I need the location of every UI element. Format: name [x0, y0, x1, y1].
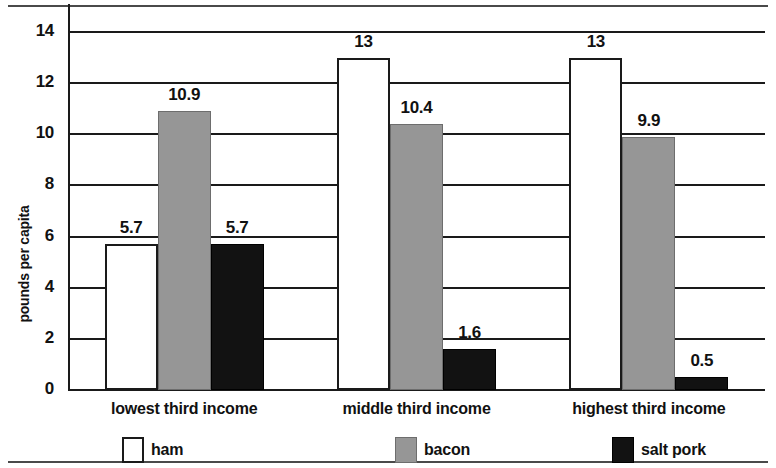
- bar-value-label: 13: [557, 32, 634, 52]
- y-axis-line: [68, 4, 70, 390]
- y-axis-tick-label: 10: [20, 123, 54, 143]
- bar-value-label: 10.9: [146, 85, 223, 105]
- bar-bacon-0: [158, 111, 211, 390]
- legend-swatch-icon: [395, 437, 417, 463]
- y-axis-tick-label: 4: [20, 277, 54, 297]
- plot-area: pounds per capita 024681012145.710.95.7l…: [0, 0, 776, 468]
- legend-swatch-icon: [122, 437, 144, 463]
- y-axis-tick-label: 12: [20, 72, 54, 92]
- legend-label: bacon: [424, 441, 470, 459]
- bar-value-label: 10.4: [378, 98, 455, 118]
- legend-item-ham[interactable]: ham: [122, 437, 183, 463]
- y-axis-tick-label: 0: [20, 379, 54, 399]
- bar-value-label: 9.9: [610, 111, 687, 131]
- y-axis-tick-label: 8: [20, 174, 54, 194]
- legend-label: ham: [151, 441, 183, 459]
- y-axis-title: pounds per capita: [16, 184, 32, 344]
- legend-item-bacon[interactable]: bacon: [395, 437, 470, 463]
- bar-bacon-1: [390, 124, 443, 390]
- bar-value-label: 0.5: [663, 351, 740, 371]
- legend-label: salt pork: [641, 441, 706, 459]
- gridline: [68, 31, 765, 33]
- y-axis-tick-label: 2: [20, 328, 54, 348]
- legend-swatch-icon: [612, 437, 634, 463]
- bar-value-label: 13: [325, 32, 402, 52]
- y-axis-tick-label: 6: [20, 226, 54, 246]
- bar-salt-pork-0: [211, 244, 264, 390]
- bar-ham-2: [569, 58, 622, 390]
- x-axis-category-label: highest third income: [513, 400, 776, 418]
- bar-ham-0: [105, 244, 158, 390]
- bar-value-label: 1.6: [431, 323, 508, 343]
- bar-salt-pork-2: [675, 377, 728, 390]
- chart-container: pounds per capita 024681012145.710.95.7l…: [0, 0, 776, 468]
- gridline: [68, 82, 765, 84]
- y-axis-tick-label: 14: [20, 21, 54, 41]
- bar-salt-pork-1: [443, 349, 496, 390]
- legend-item-salt-pork[interactable]: salt pork: [612, 437, 706, 463]
- bar-value-label: 5.7: [199, 218, 276, 238]
